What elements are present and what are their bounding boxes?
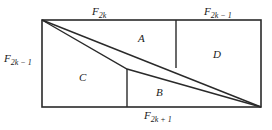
fibonacci-dissection-diagram: F2k F2k − 1 F2k − 1 F2k + 1 A D C B	[0, 0, 272, 130]
region-label-b: B	[156, 86, 163, 98]
region-label-c: C	[79, 71, 87, 83]
label-bottom: F2k + 1	[143, 109, 172, 124]
main-diagonal	[42, 20, 261, 107]
region-label-d: D	[212, 48, 221, 60]
region-label-a: A	[137, 32, 145, 44]
label-left: F2k − 1	[3, 52, 32, 67]
label-top-right: F2k − 1	[203, 5, 232, 20]
label-top-left: F2k	[91, 5, 107, 20]
